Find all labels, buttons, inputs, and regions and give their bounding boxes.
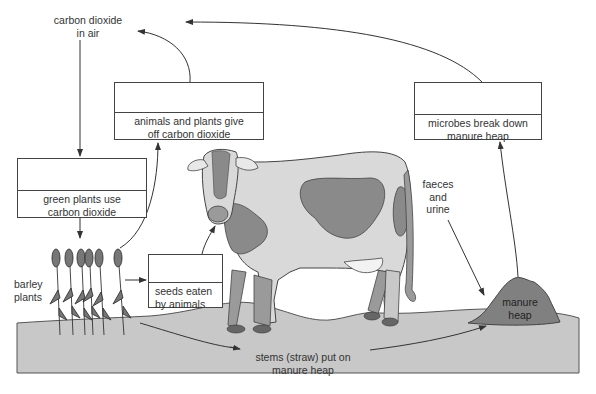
- manure-heap-label: manure heap: [495, 296, 545, 321]
- box-line2: by animals: [155, 298, 222, 311]
- manure-label-line2: heap: [495, 309, 545, 322]
- box-text: microbes break down manure heap: [415, 115, 541, 142]
- faeces-urine-label: faeces and urine: [418, 178, 458, 216]
- box-line2: manure heap: [415, 130, 541, 143]
- box-green-plants-use: green plants use carbon dioxide: [17, 158, 147, 218]
- box-line1: microbes break down: [415, 117, 541, 130]
- faeces-label-line2: and: [418, 191, 458, 204]
- barley-label-line2: plants: [14, 291, 43, 304]
- stems-label-line1: stems (straw) put on: [238, 351, 368, 364]
- box-line1: animals and plants give: [115, 115, 263, 128]
- box-text: animals and plants give off carbon dioxi…: [115, 113, 263, 140]
- co2-in-air-label: carbon dioxide in air: [52, 14, 124, 39]
- stems-label-line2: manure heap: [238, 364, 368, 377]
- co2-label-line2: in air: [52, 27, 124, 40]
- answer-blank[interactable]: [18, 159, 146, 191]
- box-line1: green plants use: [18, 193, 146, 206]
- manure-label-line1: manure: [495, 296, 545, 309]
- box-text: seeds eaten by animals: [149, 283, 222, 310]
- box-seeds-eaten: seeds eaten by animals: [148, 254, 223, 308]
- barley-label-line1: barley: [14, 278, 43, 291]
- box-animals-plants-give-off: animals and plants give off carbon dioxi…: [114, 82, 264, 140]
- barley-plants-label: barley plants: [14, 278, 43, 303]
- answer-blank[interactable]: [115, 83, 263, 113]
- box-microbes-break-down: microbes break down manure heap: [414, 82, 542, 140]
- stems-straw-label: stems (straw) put on manure heap: [238, 351, 368, 376]
- box-line1: seeds eaten: [155, 285, 222, 298]
- co2-label-line1: carbon dioxide: [52, 14, 124, 27]
- faeces-label-line3: urine: [418, 203, 458, 216]
- box-line2: off carbon dioxide: [115, 128, 263, 141]
- box-line2: carbon dioxide: [18, 206, 146, 219]
- box-text: green plants use carbon dioxide: [18, 191, 146, 218]
- answer-blank[interactable]: [415, 83, 541, 115]
- answer-blank[interactable]: [149, 255, 222, 283]
- faeces-label-line1: faeces: [418, 178, 458, 191]
